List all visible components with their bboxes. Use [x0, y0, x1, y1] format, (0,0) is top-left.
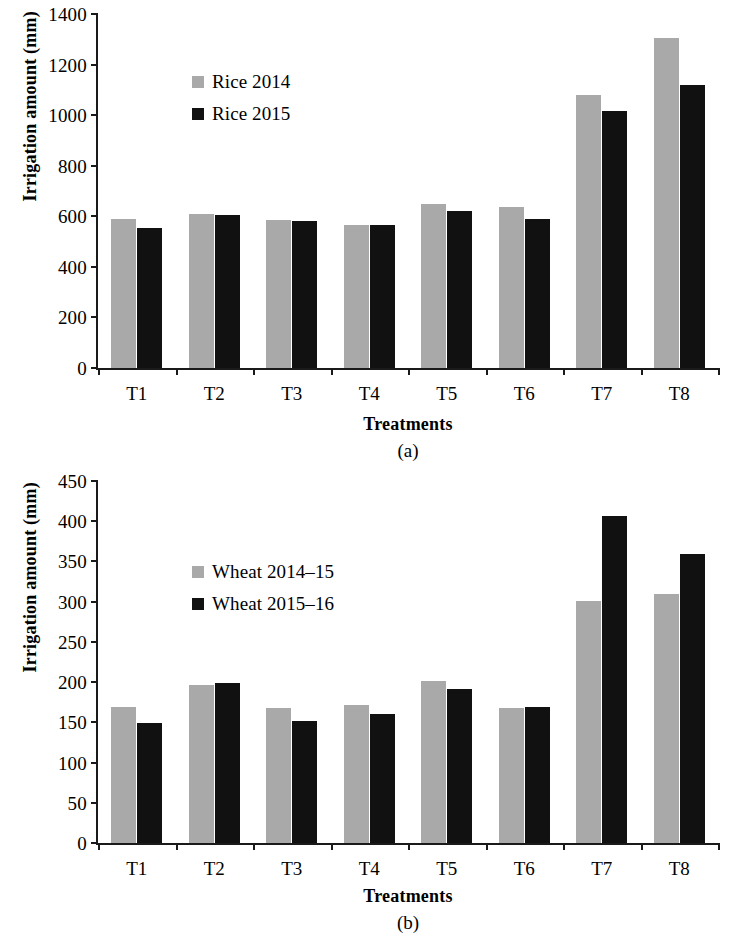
bar-b-T2-series0 — [189, 685, 214, 843]
bar-a-T4-series0 — [344, 225, 369, 368]
y-tick-label-b-3: 150 — [58, 713, 87, 732]
y-tick-b-2 — [91, 762, 98, 764]
bar-b-T3-series1 — [292, 721, 317, 843]
bar-a-T3-series0 — [266, 220, 291, 368]
bar-a-T8-series1 — [680, 85, 705, 368]
y-tick-label-a-5: 1000 — [48, 106, 87, 125]
x-tick-label-a-T2: T2 — [204, 384, 225, 403]
legend-swatch-icon-b-1 — [192, 598, 204, 610]
x-tick-label-a-T3: T3 — [281, 384, 302, 403]
x-tick-label-a-T6: T6 — [514, 384, 535, 403]
x-tick-a-3 — [331, 368, 333, 375]
bar-b-T1-series1 — [137, 723, 162, 843]
plot-area-b: 050100150200250300350400450T1T2T3T4T5T6T… — [98, 481, 718, 843]
legend-label-b-0: Wheat 2014–15 — [212, 562, 334, 581]
x-tick-label-b-T1: T1 — [126, 859, 147, 878]
y-tick-a-4 — [91, 165, 98, 167]
bar-a-T6-series1 — [525, 219, 550, 368]
x-tick-a-end — [718, 368, 720, 375]
x-tick-label-b-T6: T6 — [514, 859, 535, 878]
y-tick-a-1 — [91, 316, 98, 318]
x-tick-b-end — [718, 843, 720, 850]
legend-item-a-1: Rice 2015 — [192, 104, 290, 123]
y-tick-label-b-7: 350 — [58, 552, 87, 571]
legend-b: Wheat 2014–15Wheat 2015–16 — [192, 562, 334, 626]
x-tick-label-a-T5: T5 — [436, 384, 457, 403]
x-tick-label-a-T4: T4 — [359, 384, 380, 403]
legend-item-b-1: Wheat 2015–16 — [192, 594, 334, 613]
y-tick-label-b-9: 450 — [58, 472, 87, 491]
x-axis-title-b: Treatments — [363, 886, 452, 907]
bar-b-T7-series1 — [602, 516, 627, 843]
bar-a-T1-series1 — [137, 228, 162, 368]
x-tick-a-6 — [563, 368, 565, 375]
y-tick-label-a-1: 200 — [58, 308, 87, 327]
x-tick-label-b-T3: T3 — [281, 859, 302, 878]
y-tick-a-3 — [91, 215, 98, 217]
y-tick-label-a-4: 800 — [58, 156, 87, 175]
bar-b-T6-series0 — [499, 708, 524, 843]
bar-a-T5-series0 — [421, 204, 446, 368]
y-tick-label-b-5: 250 — [58, 632, 87, 651]
y-tick-a-0 — [91, 367, 98, 369]
y-tick-b-4 — [91, 681, 98, 683]
y-tick-label-a-3: 600 — [58, 207, 87, 226]
figure-irrigation-amount: 0200400600800100012001400T1T2T3T4T5T6T7T… — [0, 0, 752, 933]
bar-a-T5-series1 — [447, 211, 472, 368]
y-tick-label-a-2: 400 — [58, 257, 87, 276]
bar-b-T6-series1 — [525, 707, 550, 843]
bar-b-T1-series0 — [111, 707, 136, 843]
x-tick-label-b-T5: T5 — [436, 859, 457, 878]
y-tick-b-0 — [91, 842, 98, 844]
x-tick-label-b-T8: T8 — [669, 859, 690, 878]
x-tick-b-0 — [98, 843, 100, 850]
legend-label-b-1: Wheat 2015–16 — [212, 594, 334, 613]
legend-label-a-1: Rice 2015 — [212, 104, 290, 123]
x-tick-a-4 — [408, 368, 410, 375]
bar-b-T5-series0 — [421, 681, 446, 843]
x-tick-a-1 — [176, 368, 178, 375]
y-tick-a-2 — [91, 266, 98, 268]
y-tick-b-5 — [91, 641, 98, 643]
x-tick-a-5 — [486, 368, 488, 375]
plot-area-a: 0200400600800100012001400T1T2T3T4T5T6T7T… — [98, 14, 718, 368]
x-tick-label-b-T2: T2 — [204, 859, 225, 878]
bar-a-T2-series0 — [189, 214, 214, 368]
y-tick-label-a-0: 0 — [77, 359, 87, 378]
chart-panel-a: 0200400600800100012001400T1T2T3T4T5T6T7T… — [0, 0, 752, 462]
y-tick-label-b-8: 400 — [58, 512, 87, 531]
panel-caption-a: (a) — [397, 440, 418, 462]
y-tick-b-3 — [91, 721, 98, 723]
bar-a-T3-series1 — [292, 221, 317, 368]
bar-b-T4-series0 — [344, 705, 369, 843]
x-axis-title-a: Treatments — [363, 414, 452, 435]
x-tick-b-3 — [331, 843, 333, 850]
y-tick-label-b-0: 0 — [77, 834, 87, 853]
bar-a-T8-series0 — [654, 38, 679, 368]
y-tick-b-8 — [91, 520, 98, 522]
x-tick-b-6 — [563, 843, 565, 850]
bar-a-T7-series1 — [602, 111, 627, 368]
x-tick-label-a-T8: T8 — [669, 384, 690, 403]
x-tick-b-2 — [253, 843, 255, 850]
legend-item-a-0: Rice 2014 — [192, 72, 290, 91]
y-tick-label-b-6: 300 — [58, 592, 87, 611]
bar-b-T5-series1 — [447, 689, 472, 843]
bars-container-b — [98, 481, 718, 843]
x-tick-label-b-T4: T4 — [359, 859, 380, 878]
y-tick-label-b-4: 200 — [58, 673, 87, 692]
y-tick-b-6 — [91, 601, 98, 603]
bar-a-T2-series1 — [215, 215, 240, 368]
y-tick-label-b-2: 100 — [58, 753, 87, 772]
chart-panel-b: 050100150200250300350400450T1T2T3T4T5T6T… — [0, 462, 752, 933]
bar-b-T4-series1 — [370, 714, 395, 844]
x-tick-a-7 — [641, 368, 643, 375]
panel-caption-b: (b) — [397, 912, 419, 933]
y-tick-a-5 — [91, 114, 98, 116]
y-tick-b-1 — [91, 802, 98, 804]
y-tick-b-9 — [91, 480, 98, 482]
bar-a-T7-series0 — [576, 95, 601, 368]
bar-b-T8-series0 — [654, 594, 679, 843]
legend-swatch-icon-b-0 — [192, 566, 204, 578]
x-tick-b-5 — [486, 843, 488, 850]
